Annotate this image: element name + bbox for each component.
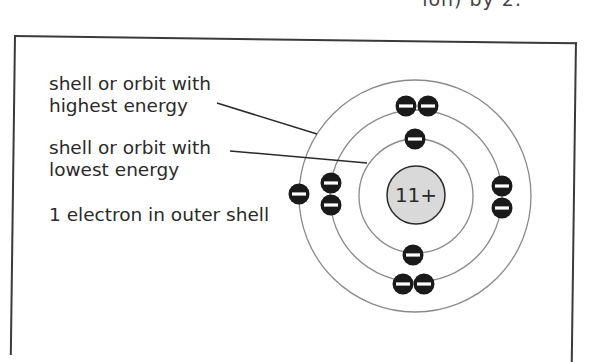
electron-icon [321,173,342,194]
electron-icon [289,184,310,205]
electron-icon [418,96,439,117]
electron-icon [492,198,513,219]
electron-icon [492,176,513,197]
electron-icon [403,245,424,266]
electron-icon [393,274,414,295]
electron-icon [405,129,426,150]
electron-icon [321,195,342,216]
electron-icon [414,274,435,295]
nucleus-charge: 11+ [386,181,446,209]
leader-line-highest [217,103,317,134]
electron-icon [396,96,417,117]
leader-line-lowest [230,151,367,163]
